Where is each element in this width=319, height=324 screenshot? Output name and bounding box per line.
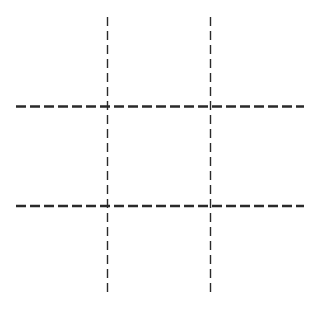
tic-tac-toe-board (0, 0, 319, 324)
cell-r2-c3[interactable] (212, 108, 304, 205)
cell-r1-c2[interactable] (109, 17, 210, 106)
cell-r1-c1[interactable] (16, 17, 107, 106)
cell-r2-c1[interactable] (16, 108, 107, 205)
cell-r3-c2[interactable] (109, 208, 210, 297)
cell-r1-c3[interactable] (212, 17, 304, 106)
cell-r2-c2[interactable] (109, 108, 210, 205)
cell-r3-c1[interactable] (16, 208, 107, 297)
cell-r3-c3[interactable] (212, 208, 304, 297)
